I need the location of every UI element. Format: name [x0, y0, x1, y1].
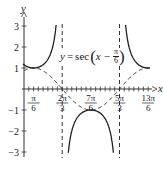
eq-x: x − — [96, 51, 111, 62]
axes — [22, 12, 158, 157]
tick-labels: xy321−1−2−3π62π37π65π313π6 — [8, 2, 163, 158]
y-tick-label: 3 — [14, 21, 19, 32]
eq-sec: sec — [75, 51, 89, 62]
secant-branch-left — [23, 25, 56, 68]
y-tick-label: 1 — [14, 63, 19, 74]
x-tick-numerator: 5π — [115, 93, 125, 103]
x-tick-denominator: 3 — [60, 103, 65, 113]
x-tick-numerator: 2π — [58, 93, 68, 103]
eq-paren-close: ) — [119, 48, 125, 65]
curves — [23, 24, 150, 158]
y-tick-label: −3 — [8, 147, 19, 158]
x-tick-denominator: 6 — [146, 103, 151, 113]
x-tick-denominator: 6 — [31, 103, 36, 113]
eq-equals: = — [67, 51, 73, 62]
y-tick-label: −2 — [8, 126, 19, 137]
x-tick-denominator: 6 — [89, 103, 94, 113]
eq-y: y — [60, 51, 65, 62]
x-tick-denominator: 3 — [117, 103, 122, 113]
x-tick-numerator: 13π — [141, 93, 155, 103]
eq-six: 6 — [114, 57, 118, 65]
x-axis-arrow — [152, 87, 157, 92]
y-tick-label: −1 — [8, 105, 19, 116]
secant-branch-right — [126, 25, 150, 68]
secant-graph: xy321−1−2−3π62π37π65π313π6 — [0, 0, 163, 174]
x-axis-label: x — [157, 82, 163, 94]
secant-branch-middle — [68, 110, 113, 153]
x-tick-numerator: 7π — [86, 93, 96, 103]
x-tick-numerator: π — [31, 93, 36, 103]
equation-label: y = sec ( x − π 6 ) — [59, 48, 126, 65]
y-axis-label: y — [20, 2, 26, 14]
y-tick-label: 2 — [14, 42, 19, 53]
